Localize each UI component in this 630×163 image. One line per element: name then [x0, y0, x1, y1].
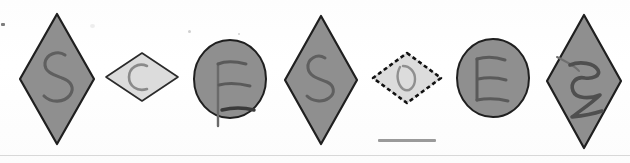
- shape-diamond-c-2[interactable]: [104, 51, 180, 103]
- edge-speck: [1, 23, 5, 26]
- scan-speck: [188, 30, 191, 33]
- shape-strip-canvas: [0, 0, 630, 163]
- shape-diamond-d-5[interactable]: [370, 50, 444, 106]
- diamond-outline: [106, 53, 178, 101]
- shape-diamond-s-1[interactable]: [18, 12, 96, 146]
- scan-speck: [238, 33, 240, 35]
- shape-diamond-e-7[interactable]: [545, 13, 623, 150]
- scale-bar: [378, 139, 436, 142]
- diamond-outline: [547, 15, 621, 148]
- diamond-outline: [373, 53, 441, 103]
- ellipse-outline: [194, 40, 266, 118]
- diamond-outline: [20, 14, 94, 144]
- shape-diamond-s-4[interactable]: [283, 14, 359, 146]
- shape-ellipse-f-3[interactable]: [192, 38, 272, 130]
- bottom-divider: [0, 155, 630, 156]
- shape-ellipse-e-6[interactable]: [455, 37, 531, 119]
